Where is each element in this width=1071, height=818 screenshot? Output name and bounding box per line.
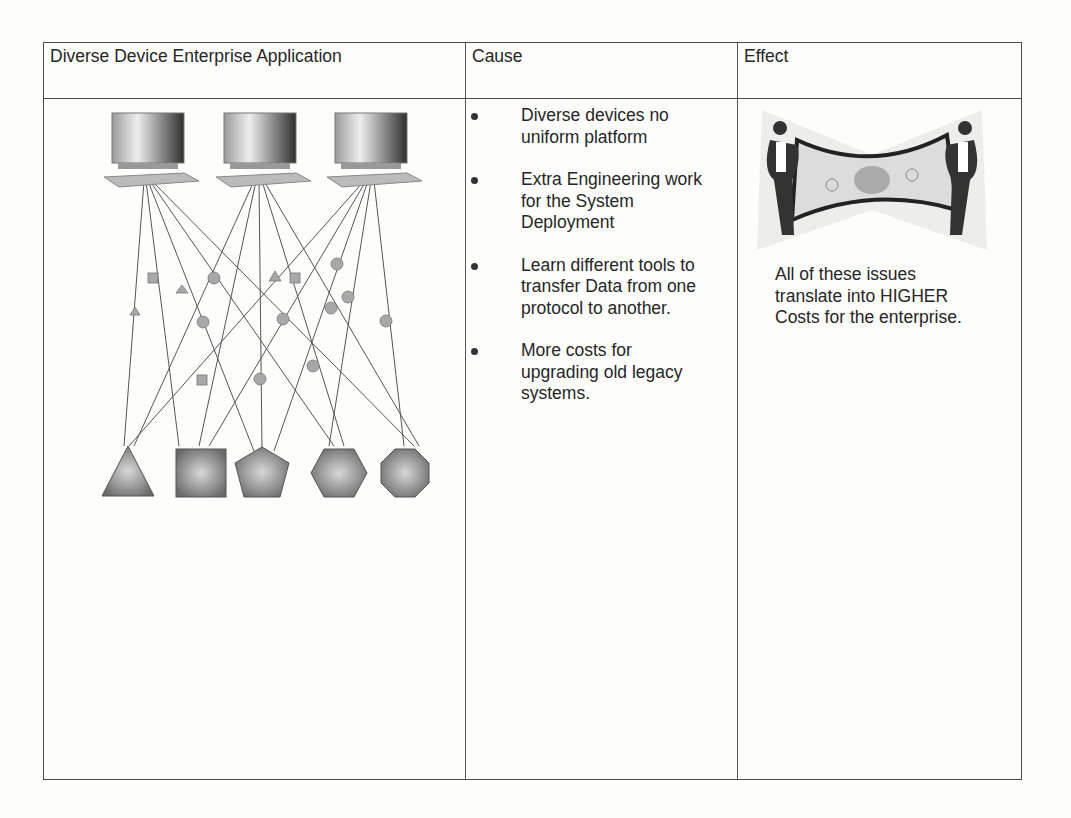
hexagon-device-icon — [311, 449, 367, 497]
device-network-diagram — [84, 101, 454, 521]
triangle-device-icon — [102, 446, 154, 496]
bullet-icon — [471, 177, 478, 184]
cause-item: Extra Engineering work for the System De… — [466, 169, 706, 234]
column-divider — [737, 43, 738, 779]
bullet-icon — [471, 113, 478, 120]
octagon-device-icon — [381, 449, 429, 497]
header-effect: Effect — [738, 43, 1023, 99]
header-cause: Cause — [466, 43, 738, 99]
cause-item: Diverse devices no uniform platform — [466, 105, 706, 148]
businessmen-stretching-money-icon — [752, 100, 992, 260]
effect-text: All of these issues translate into HIGHE… — [775, 264, 985, 329]
cause-item: Learn different tools to transfer Data f… — [466, 255, 706, 320]
computer-icon — [104, 113, 422, 187]
cause-list: Diverse devices no uniform platform Extr… — [466, 105, 706, 426]
square-device-icon — [176, 449, 226, 497]
header-application: Diverse Device Enterprise Application — [44, 43, 466, 99]
pentagon-device-icon — [235, 447, 289, 497]
bullet-icon — [471, 348, 478, 355]
cause-item: More costs for upgrading old legacy syst… — [466, 340, 706, 405]
bullet-icon — [471, 263, 478, 270]
